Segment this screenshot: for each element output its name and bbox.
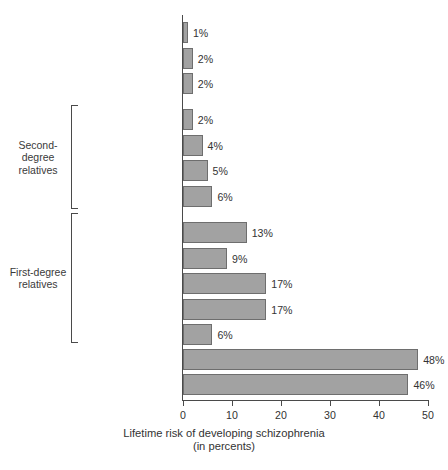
x-tick	[379, 400, 380, 406]
x-axis-title: Lifetime risk of developing schizophreni…	[0, 427, 448, 453]
bar-value-label: 2%	[198, 114, 213, 126]
bar	[183, 160, 208, 181]
bar-value-label: 6%	[217, 329, 232, 341]
x-tick-label: 10	[219, 409, 245, 421]
bar	[183, 349, 418, 370]
x-tick-label: 0	[170, 409, 196, 421]
x-tick	[281, 400, 282, 406]
bar-value-label: 9%	[232, 253, 247, 265]
bar	[183, 109, 193, 130]
bar	[183, 135, 203, 156]
bar	[183, 324, 212, 345]
x-tick	[330, 400, 331, 406]
bar-value-label: 2%	[198, 78, 213, 90]
bar-value-label: 5%	[213, 165, 228, 177]
bar	[183, 73, 193, 94]
x-tick	[232, 400, 233, 406]
x-tick-label: 30	[317, 409, 343, 421]
bar	[183, 186, 212, 207]
x-tick-label: 50	[415, 409, 441, 421]
x-tick	[183, 400, 184, 406]
bar-value-label: 46%	[413, 379, 434, 391]
bar	[183, 273, 266, 294]
bar-value-label: 6%	[217, 191, 232, 203]
schizophrenia-risk-bar-chart: Second- degree relatives First-degree re…	[0, 0, 448, 470]
bar-value-label: 17%	[271, 278, 292, 290]
bar	[183, 222, 247, 243]
bar-value-label: 2%	[198, 53, 213, 65]
x-tick	[428, 400, 429, 406]
x-tick-label: 20	[268, 409, 294, 421]
bar	[183, 299, 266, 320]
bar	[183, 22, 188, 43]
bar-value-label: 48%	[423, 354, 444, 366]
bar-value-label: 4%	[208, 140, 223, 152]
x-tick-label: 40	[366, 409, 392, 421]
x-axis-line	[182, 400, 429, 401]
bar-value-label: 1%	[193, 27, 208, 39]
bar-value-label: 13%	[252, 227, 273, 239]
plot-area: General population1%Spouses of patients2…	[0, 0, 448, 470]
bar	[183, 248, 227, 269]
bar	[183, 48, 193, 69]
bar-value-label: 17%	[271, 304, 292, 316]
bar	[183, 374, 408, 395]
